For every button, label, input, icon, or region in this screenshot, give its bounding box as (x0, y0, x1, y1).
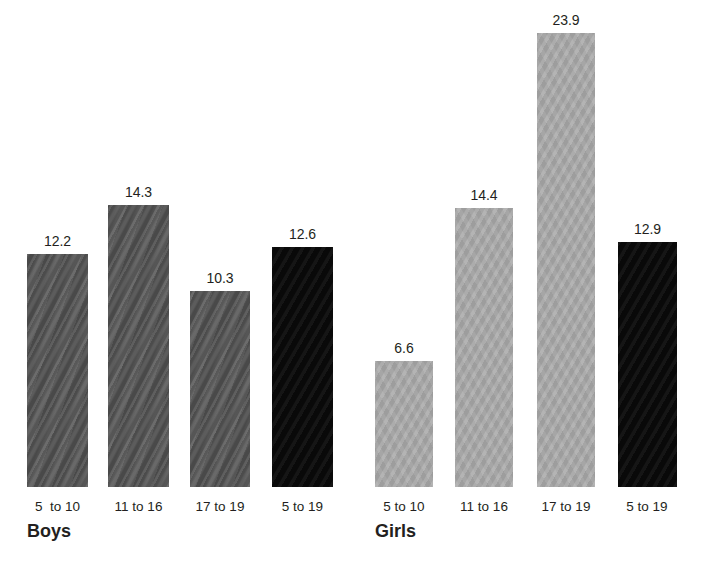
bar-girls-17-to-19[interactable] (537, 33, 595, 487)
bar-chart: 12.2 5 to 10 14.3 11 to 16 10.3 17 to 19… (0, 0, 701, 566)
bar-category-label: 17 to 19 (526, 500, 606, 514)
bar-girls-5-to-19-total[interactable] (618, 242, 677, 487)
bar-category-label: 5 to 10 (364, 500, 444, 514)
bar-value-label: 14.4 (455, 188, 513, 202)
bar-group-girls: 6.6 5 to 10 14.4 11 to 16 23.9 17 to 19 … (0, 0, 701, 566)
bar-category-label: 11 to 16 (444, 500, 524, 514)
bar-category-label: 5 to 19 (607, 500, 687, 514)
bar-value-label: 12.9 (618, 222, 677, 236)
group-heading-girls: Girls (375, 521, 416, 541)
bar-girls-11-to-16[interactable] (455, 208, 513, 487)
bar-value-label: 6.6 (375, 341, 433, 355)
bar-value-label: 23.9 (537, 13, 595, 27)
bar-girls-5-to-10[interactable] (375, 361, 433, 487)
